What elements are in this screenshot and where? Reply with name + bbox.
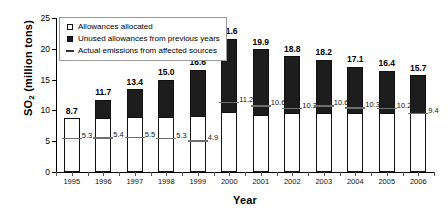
legend-label: Unused allowances from previous years [78,35,220,43]
x-axis-tick [135,172,136,176]
actual-emissions-value-label: 5.3 [176,132,186,140]
bar-group[interactable]: 9.415.7 [410,75,426,172]
actual-emissions-value-label: 5.3 [82,132,92,140]
bar-segment-unused-allowances[interactable] [190,70,206,117]
bar-segment-allowances-allocated[interactable] [316,113,332,172]
x-axis-tick [261,172,262,176]
actual-emissions-marker [251,105,271,107]
y-axis-tick-label: 15 [41,75,50,84]
actual-emissions-value-label: 5.4 [113,132,123,140]
actual-emissions-value-label: 10.6 [271,99,286,107]
actual-emissions-value-label: 10.2 [397,102,412,110]
bar-group[interactable]: 10.216.4 [379,71,395,172]
y-axis-title-base: SO [22,100,34,116]
x-axis-tick-label: 2003 [315,178,332,186]
x-axis-tick-label: 2004 [347,178,364,186]
y-axis-tick-label: 0 [45,168,50,177]
legend-label: Allowances allocated [78,23,153,31]
x-axis-tick [292,172,293,176]
y-axis-title: SO2 (million tons) [22,8,34,128]
bar-segment-allowances-allocated[interactable] [253,115,269,172]
actual-emissions-marker [156,138,176,140]
bar-group[interactable]: 10.317.1 [347,67,363,172]
actual-emissions-marker [282,108,302,110]
actual-emissions-marker [314,105,334,107]
actual-emissions-marker [62,138,82,140]
x-axis-tick-label: 2000 [221,178,238,186]
x-axis-tick [324,172,325,176]
x-axis-tick-label: 2002 [284,178,301,186]
x-axis-tick [403,172,404,176]
actual-emissions-marker [377,108,397,110]
actual-emissions-marker [188,140,208,142]
bar-segment-unused-allowances[interactable] [284,56,300,114]
bar-total-value-label: 13.4 [126,78,143,87]
bar-total-value-label: 8.7 [66,107,78,116]
x-axis-tick [166,172,167,176]
dash-line-icon [64,50,75,52]
bar-segment-unused-allowances[interactable] [127,89,143,118]
bar-total-value-label: 15.7 [410,64,427,73]
bar-segment-unused-allowances[interactable] [95,100,111,119]
y-axis-tick [52,80,56,81]
x-axis-tick [355,172,356,176]
bar-group[interactable]: 10.218.8 [284,56,300,172]
legend-item-unused-allowances: Unused allowances from previous years [64,33,220,45]
bar-segment-allowances-allocated[interactable] [95,118,111,172]
y-axis-tick-label: 5 [45,137,50,146]
x-axis-tick [119,172,120,176]
bar-segment-allowances-allocated[interactable] [190,116,206,172]
x-axis-tick-label: 1995 [63,178,80,186]
bar-group[interactable]: 5.411.7 [95,100,111,172]
bar-group[interactable]: 10.619.9 [253,49,269,172]
actual-emissions-value-label: 11.2 [239,96,253,104]
legend-item-actual-emissions: Actual emissions from affected sources [64,45,220,57]
bar-segment-allowances-allocated[interactable] [410,113,426,172]
so2-allowances-chart: SO2 (million tons) 0510152025 1995199619… [0,0,448,213]
actual-emissions-marker [125,137,145,139]
legend-item-allowances-allocated: Allowances allocated [64,21,220,33]
bar-total-value-label: 18.2 [315,48,332,57]
bar-segment-allowances-allocated[interactable] [284,113,300,172]
x-axis-tick [56,172,57,176]
bar-group[interactable]: 4.916.6 [190,70,206,172]
filled-square-icon [64,36,75,42]
bar-total-value-label: 17.1 [347,55,364,64]
bar-segment-allowances-allocated[interactable] [158,117,174,172]
x-axis-tick [308,172,309,176]
x-axis-tick-label: 1999 [189,178,206,186]
bar-total-value-label: 18.8 [284,45,301,54]
actual-emissions-marker [408,113,428,115]
x-axis-tick [103,172,104,176]
bar-group[interactable]: 5.513.4 [127,89,143,172]
x-axis-title: Year [56,194,434,206]
bar-total-value-label: 15.0 [158,68,175,77]
bar-segment-unused-allowances[interactable] [410,75,426,114]
chart-legend: Allowances allocated Unused allowances f… [59,17,227,61]
actual-emissions-value-label: 9.4 [428,107,438,115]
bar-segment-allowances-allocated[interactable] [221,112,237,172]
x-axis-tick-label: 1996 [95,178,112,186]
x-axis-tick [245,172,246,176]
bar-segment-allowances-allocated[interactable] [379,113,395,172]
x-axis-tick [151,172,152,176]
x-axis-tick [277,172,278,176]
bar-segment-allowances-allocated[interactable] [347,113,363,172]
y-axis-tick-label: 25 [41,14,50,23]
y-axis-title-subscript: 2 [27,95,36,100]
x-axis-tick-label: 1997 [126,178,143,186]
x-axis-tick [214,172,215,176]
bar-segment-unused-allowances[interactable] [158,80,174,118]
actual-emissions-value-label: 4.9 [208,135,218,143]
x-axis-tick [340,172,341,176]
y-axis-tick [52,110,56,111]
bar-group[interactable]: 10.618.2 [316,60,332,172]
x-axis-tick [198,172,199,176]
bar-segment-allowances-allocated[interactable] [127,117,143,172]
bar-group[interactable]: 5.315.0 [158,80,174,172]
bar-group[interactable]: 5.38.7 [64,118,80,172]
y-axis-tick [52,18,56,19]
bar-segment-allowances-allocated[interactable] [64,118,80,172]
x-axis-tick [371,172,372,176]
x-axis-tick-label: 2006 [410,178,427,186]
